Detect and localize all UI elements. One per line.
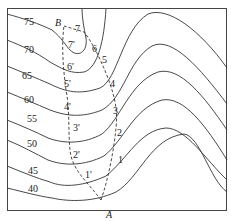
- left-label-3: 3': [73, 122, 80, 133]
- right-label-4: 4: [110, 78, 115, 89]
- point-a-label: A: [105, 209, 113, 220]
- left-label-5: 5': [64, 78, 71, 89]
- contour-label-55: 55: [27, 113, 37, 124]
- contour-label-50: 50: [27, 138, 37, 149]
- right-label-7: 7: [75, 23, 80, 34]
- contour-label-75: 75: [24, 16, 34, 27]
- contour-label-40: 40: [28, 183, 38, 194]
- contour-diagram: 75 70 65 60 55 50 45 40 B A 1 2 3 4 5 6 …: [0, 0, 231, 221]
- left-label-6: 6': [67, 61, 74, 72]
- contour-value-labels: 75 70 65 60 55 50 45 40: [22, 16, 38, 194]
- contour-label-70: 70: [24, 44, 34, 55]
- right-label-1: 1: [118, 154, 123, 165]
- left-label-2: 2': [73, 149, 80, 160]
- left-label-7: 7': [68, 39, 75, 50]
- contour-map-svg: 75 70 65 60 55 50 45 40 B A 1 2 3 4 5 6 …: [0, 0, 231, 221]
- left-label-1: 1': [85, 169, 92, 180]
- left-label-4: 4': [64, 101, 71, 112]
- right-label-3: 3: [113, 105, 118, 116]
- right-label-5: 5: [102, 54, 107, 65]
- right-label-2: 2: [117, 127, 122, 138]
- point-b-label: B: [55, 17, 61, 28]
- right-label-6: 6: [92, 43, 97, 54]
- contour-label-65: 65: [22, 70, 32, 81]
- contour-label-45: 45: [28, 165, 38, 176]
- route-left-labels: 1' 2' 3' 4' 5' 6' 7': [64, 39, 92, 180]
- contour-label-60: 60: [24, 94, 34, 105]
